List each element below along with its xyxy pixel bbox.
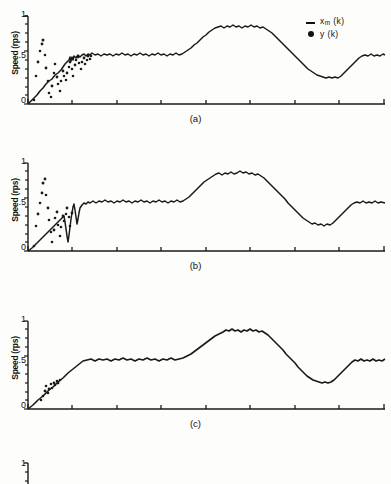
figure-container: Speed (rps) 1 .5 0	[0, 0, 391, 484]
legend-line-icon	[305, 15, 316, 28]
panel-a-caption: (a)	[0, 113, 391, 124]
panel-d-plot	[0, 460, 391, 484]
panel-a-legend: xm (k) y (k)	[305, 15, 344, 41]
panel-a-measurement-dots	[33, 39, 93, 102]
panel-a: Speed (rps) 1 .5 0	[0, 0, 391, 140]
panel-b-estimate-trace	[28, 171, 385, 251]
legend-measurement-label: y (k)	[320, 28, 339, 41]
panel-c-caption: (c)	[0, 418, 391, 429]
panel-c-plot	[0, 305, 391, 420]
panel-b-plot	[0, 147, 391, 262]
panel-b: Speed (rps) 1 .5 0	[0, 147, 391, 287]
panel-c-estimate-trace	[28, 329, 385, 409]
legend-dot-icon	[305, 28, 316, 41]
panel-b-caption: (b)	[0, 260, 391, 271]
panel-c: Speed (rps) 1 .5 0	[0, 305, 391, 445]
legend-entry-measurement: y (k)	[305, 28, 344, 41]
legend-entry-estimate: xm (k)	[305, 15, 344, 28]
legend-estimate-label: xm (k)	[320, 15, 344, 29]
panel-d-cropped: 1	[0, 460, 391, 484]
